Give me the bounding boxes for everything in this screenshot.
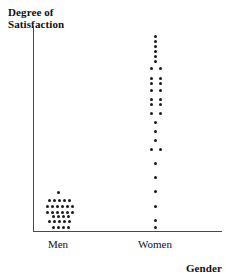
data-point-women: [154, 162, 157, 165]
data-point-women: [154, 139, 157, 142]
data-point-men: [52, 226, 55, 229]
data-point-women: [154, 55, 157, 58]
data-point-women: [154, 219, 157, 222]
data-point-women: [154, 121, 157, 124]
data-point-men: [48, 220, 51, 223]
data-point-men: [66, 211, 69, 214]
x-tick-label-women: Women: [120, 238, 190, 250]
data-point-men: [53, 220, 56, 223]
data-point-men: [58, 199, 61, 202]
data-point-women: [150, 82, 153, 85]
data-point-men: [46, 205, 49, 208]
data-point-women: [150, 112, 153, 115]
data-point-men: [67, 226, 70, 229]
data-point-men: [57, 191, 60, 194]
data-point-women: [150, 77, 153, 80]
data-point-men: [46, 211, 49, 214]
data-point-men: [51, 211, 54, 214]
data-point-men: [68, 220, 71, 223]
data-point-men: [51, 205, 54, 208]
data-point-men: [53, 199, 56, 202]
data-point-women: [154, 40, 157, 43]
data-point-women: [154, 45, 157, 48]
data-point-women: [159, 98, 162, 101]
data-point-men: [62, 226, 65, 229]
data-point-women: [150, 103, 153, 106]
data-point-women: [154, 130, 157, 133]
data-point-men: [52, 215, 55, 218]
data-point-women: [154, 60, 157, 63]
data-point-women: [150, 89, 153, 92]
data-point-men: [57, 215, 60, 218]
x-tick-label-men: Men: [23, 238, 93, 250]
data-point-women: [154, 176, 157, 179]
data-point-men: [68, 199, 71, 202]
data-point-men: [67, 215, 70, 218]
data-point-men: [66, 205, 69, 208]
data-point-women: [154, 190, 157, 193]
data-point-women: [159, 82, 162, 85]
data-point-men: [61, 205, 64, 208]
data-point-men: [71, 211, 74, 214]
data-point-women: [159, 77, 162, 80]
data-point-men: [63, 199, 66, 202]
data-point-men: [56, 205, 59, 208]
data-point-men: [58, 220, 61, 223]
data-point-women: [150, 67, 153, 70]
data-point-women: [154, 226, 157, 229]
data-point-men: [61, 211, 64, 214]
data-point-men: [63, 220, 66, 223]
data-point-women: [159, 103, 162, 106]
data-point-men: [71, 205, 74, 208]
data-point-women: [159, 67, 162, 70]
plot-area: [0, 0, 226, 232]
data-point-women: [150, 148, 153, 151]
data-point-women: [154, 50, 157, 53]
dotplot-figure: Degree of Satisfaction Men Women Gender: [0, 0, 226, 278]
data-point-men: [57, 226, 60, 229]
data-point-women: [154, 35, 157, 38]
x-axis-title: Gender: [186, 262, 222, 274]
data-point-men: [56, 211, 59, 214]
data-point-women: [154, 205, 157, 208]
data-point-men: [62, 215, 65, 218]
data-point-men: [48, 199, 51, 202]
data-point-women: [159, 112, 162, 115]
data-point-women: [159, 148, 162, 151]
data-point-women: [159, 89, 162, 92]
data-point-women: [150, 98, 153, 101]
